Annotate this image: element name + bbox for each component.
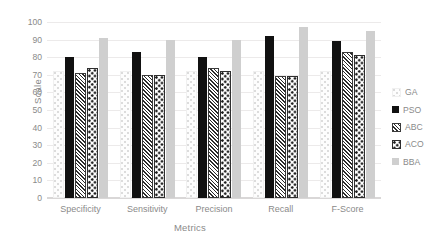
- x-axis-tick-label: F-Score: [314, 204, 381, 214]
- bar-group: Sensitivity: [114, 22, 181, 198]
- bar-ga-sensitivity[interactable]: [120, 71, 131, 198]
- bar-aco-sensitivity[interactable]: [154, 75, 165, 198]
- x-axis-tick-label: Sensitivity: [114, 204, 181, 214]
- y-axis-tick-label: 30: [32, 140, 42, 150]
- bar-bba-specificity[interactable]: [99, 38, 108, 198]
- bar-ga-recall[interactable]: [253, 71, 264, 198]
- bar-pso-f-score[interactable]: [332, 41, 341, 198]
- plot-area: 0102030405060708090100 SpecificitySensit…: [47, 22, 381, 198]
- bar-pso-specificity[interactable]: [65, 57, 74, 198]
- bar-ga-precision[interactable]: [186, 71, 197, 198]
- bar-aco-precision[interactable]: [220, 71, 231, 198]
- bar-abc-recall[interactable]: [275, 76, 286, 198]
- bar-chart: Scale Metrics 0102030405060708090100 Spe…: [0, 0, 437, 242]
- bar-group: Recall: [247, 22, 314, 198]
- legend-item-abc[interactable]: ABC: [392, 123, 424, 132]
- bar-bba-f-score[interactable]: [366, 31, 375, 198]
- legend-label: PSO: [403, 106, 421, 115]
- x-axis-tick-label: Recall: [247, 204, 314, 214]
- y-axis-tick-label: 0: [37, 193, 42, 203]
- legend-item-bba[interactable]: BBA: [392, 158, 424, 167]
- bar-pso-precision[interactable]: [198, 57, 207, 198]
- y-axis-tick-label: 70: [32, 70, 42, 80]
- y-axis-tick-label: 40: [32, 123, 42, 133]
- legend-item-aco[interactable]: ACO: [392, 140, 424, 149]
- bar-bba-precision[interactable]: [232, 40, 241, 198]
- bar-pso-recall[interactable]: [265, 36, 274, 198]
- y-axis-tick-label: 100: [28, 17, 42, 27]
- gridline: [47, 198, 381, 199]
- x-axis-tick-label: Precision: [181, 204, 248, 214]
- bar-abc-precision[interactable]: [208, 68, 219, 199]
- y-axis-tick-label: 20: [32, 158, 42, 168]
- legend-swatch-icon: [392, 158, 399, 165]
- bar-aco-recall[interactable]: [287, 76, 298, 198]
- bar-abc-sensitivity[interactable]: [142, 75, 153, 198]
- bar-bba-sensitivity[interactable]: [166, 40, 175, 198]
- y-axis-tick-label: 80: [32, 52, 42, 62]
- bar-groups: SpecificitySensitivityPrecisionRecallF-S…: [47, 22, 381, 198]
- legend-label: GA: [405, 88, 417, 97]
- y-axis-tick-label: 60: [32, 87, 42, 97]
- y-axis-tick-label: 50: [32, 105, 42, 115]
- bar-aco-f-score[interactable]: [354, 55, 365, 198]
- x-axis-tick-label: Specificity: [47, 204, 114, 214]
- bar-ga-f-score[interactable]: [320, 71, 331, 198]
- legend-swatch-icon: [392, 123, 401, 132]
- legend-swatch-icon: [392, 106, 399, 113]
- legend-swatch-icon: [392, 140, 401, 149]
- legend-label: ACO: [405, 140, 424, 149]
- legend-item-pso[interactable]: PSO: [392, 106, 424, 115]
- legend-label: ABC: [405, 123, 423, 132]
- bar-group: F-Score: [314, 22, 381, 198]
- y-axis-tick-label: 90: [32, 35, 42, 45]
- bar-pso-sensitivity[interactable]: [132, 52, 141, 198]
- bar-abc-f-score[interactable]: [342, 52, 353, 198]
- legend-item-ga[interactable]: GA: [392, 88, 424, 97]
- x-axis-title: Metrics: [0, 222, 380, 233]
- legend-swatch-icon: [392, 88, 401, 97]
- bar-group: Specificity: [47, 22, 114, 198]
- bar-group: Precision: [181, 22, 248, 198]
- bar-bba-recall[interactable]: [299, 27, 308, 198]
- bar-ga-specificity[interactable]: [53, 71, 64, 198]
- bar-abc-specificity[interactable]: [75, 73, 86, 198]
- legend: GAPSOABCACOBBA: [392, 88, 424, 166]
- legend-label: BBA: [403, 158, 420, 167]
- bar-aco-specificity[interactable]: [87, 68, 98, 199]
- y-axis-tick-label: 10: [32, 175, 42, 185]
